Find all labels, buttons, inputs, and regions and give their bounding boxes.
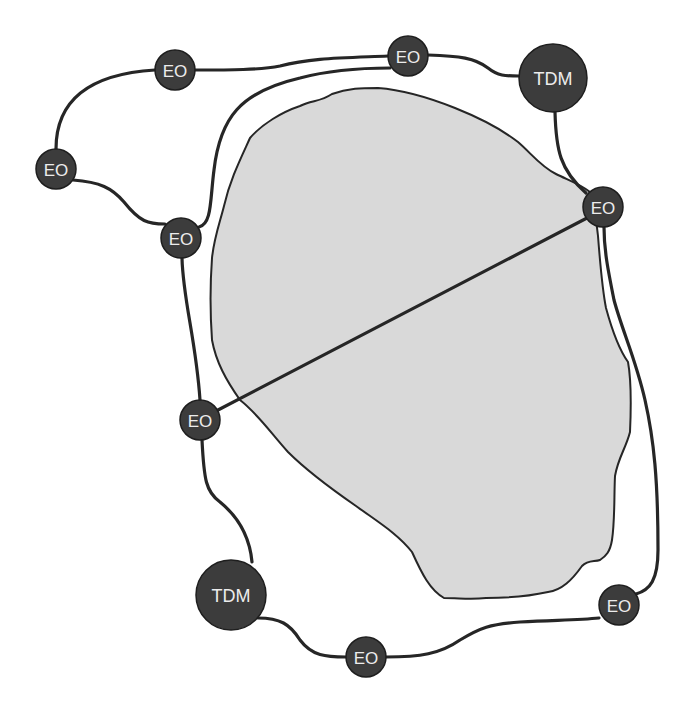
node-label: EO — [591, 199, 616, 218]
node-eo-bottom-right: EO — [599, 585, 639, 625]
node-label: TDM — [212, 586, 251, 606]
link-eo-far-left-to-eo-top-left — [56, 70, 155, 149]
node-eo-inner-left: EO — [161, 218, 201, 258]
node-label: TDM — [534, 69, 573, 89]
node-tdm-top-right: TDM — [519, 44, 587, 112]
link-eo-top-middle-to-tdm-top-right — [428, 55, 519, 76]
node-label: EO — [44, 161, 69, 180]
node-tdm-bottom-left: TDM — [196, 560, 266, 630]
node-eo-right: EO — [583, 187, 623, 227]
link-eo-inner-left-to-eo-left-middle — [182, 258, 200, 400]
node-eo-bottom: EO — [346, 637, 386, 677]
node-eo-top-middle: EO — [388, 36, 428, 76]
link-eo-left-middle-to-tdm-bottom-left — [202, 440, 252, 562]
node-label: EO — [354, 649, 379, 668]
node-eo-left-middle: EO — [180, 400, 220, 440]
service-region-shape — [211, 88, 631, 599]
node-label: EO — [169, 230, 194, 249]
link-eo-far-left-to-eo-inner-left — [73, 180, 165, 224]
node-eo-top-left: EO — [155, 50, 195, 90]
node-label: EO — [163, 62, 188, 81]
node-label: EO — [396, 48, 421, 67]
link-eo-bottom-to-eo-bottom-right — [386, 618, 599, 657]
node-label: EO — [607, 597, 632, 616]
node-eo-far-left: EO — [36, 149, 76, 189]
link-tdm-bottom-left-to-eo-bottom — [258, 618, 346, 657]
network-diagram: EOEOTDMEOEOEOEOTDMEOEO — [0, 0, 690, 711]
node-label: EO — [188, 412, 213, 431]
